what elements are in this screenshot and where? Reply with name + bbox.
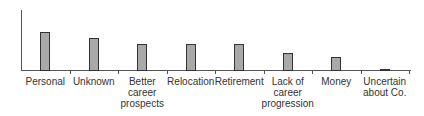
bar [331, 57, 341, 71]
bar [89, 38, 99, 71]
x-tick [409, 70, 410, 74]
bar [283, 53, 293, 71]
x-tick-label: Uncertain about Co. [355, 76, 415, 98]
bar [186, 44, 196, 71]
x-tick [118, 70, 119, 74]
x-axis [21, 70, 411, 71]
x-tick [264, 70, 265, 74]
bar-chart: PersonalUnknownBetter career prospectsRe… [0, 0, 424, 116]
bar [234, 44, 244, 71]
x-tick [215, 70, 216, 74]
x-tick [312, 70, 313, 74]
bar [40, 32, 50, 71]
bar [137, 44, 147, 71]
x-tick [361, 70, 362, 74]
bar [380, 69, 390, 71]
x-tick [70, 70, 71, 74]
y-axis [21, 10, 22, 71]
x-tick [167, 70, 168, 74]
